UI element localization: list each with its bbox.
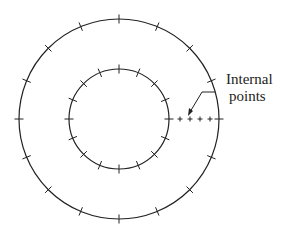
internal-label-line1: Internal [226,71,273,88]
boundary-discretization-diagram [0,0,285,236]
inner-circle-boundary [65,65,174,174]
internal-label-line2: points [229,88,266,105]
leader-line [190,92,215,112]
label-leader-arrow [188,92,215,116]
internal-points [178,117,213,122]
